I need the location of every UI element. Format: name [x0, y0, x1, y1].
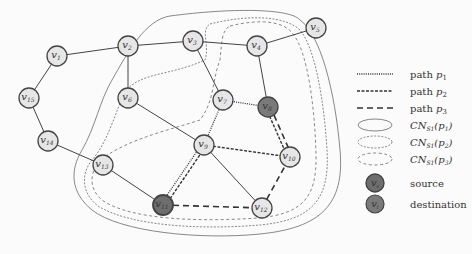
node-v6: v6 [118, 88, 138, 108]
node-v2: v2 [118, 36, 138, 56]
node-v15: v15 [19, 88, 39, 108]
nodes: v1v2v3v4v5v6v7v8v9v10v11v12v13v14v15 [19, 18, 326, 218]
node-v13: v13 [93, 155, 113, 175]
edges [29, 28, 316, 208]
graph-diagram: v1v2v3v4v5v6v7v8v9v10v11v12v13v14v15 pat… [0, 0, 472, 254]
legend-label-p2: path p2 [410, 86, 447, 99]
node-v8: v8 [258, 97, 278, 117]
path-p3 [163, 106, 292, 208]
path-p1 [161, 100, 268, 204]
node-v5: v5 [306, 18, 326, 38]
node-v1: v1 [47, 46, 67, 66]
node-v7: v7 [213, 90, 233, 110]
legend-label-source: source [410, 178, 444, 189]
legend-swatch-cn-p2 [358, 136, 392, 148]
legend-swatch-cn-p1 [358, 119, 392, 131]
node-v3: v3 [183, 31, 203, 51]
legend-label-p3: path p3 [410, 103, 447, 116]
node-v4: v4 [247, 36, 267, 56]
node-v11: v11 [153, 195, 173, 215]
path-p2 [165, 108, 290, 206]
node-v10: v10 [280, 147, 300, 167]
legend-label-p1: path p1 [410, 69, 447, 82]
legend-label-destination: destination [410, 199, 467, 210]
region-cn-p1 [74, 10, 341, 236]
legend-label-cn-p3: CNS1(p3) [410, 154, 452, 166]
legend: path p1 path p2 path p3 CNS1(p1) CNS1(p2… [357, 69, 467, 213]
regions [74, 10, 341, 236]
node-v12: v12 [252, 198, 272, 218]
node-v14: v14 [38, 131, 58, 151]
legend-label-cn-p1: CNS1(p1) [410, 120, 452, 132]
legend-label-cn-p2: CNS1(p2) [410, 137, 452, 149]
legend-swatch-cn-p3 [358, 153, 392, 165]
node-v9: v9 [194, 135, 214, 155]
